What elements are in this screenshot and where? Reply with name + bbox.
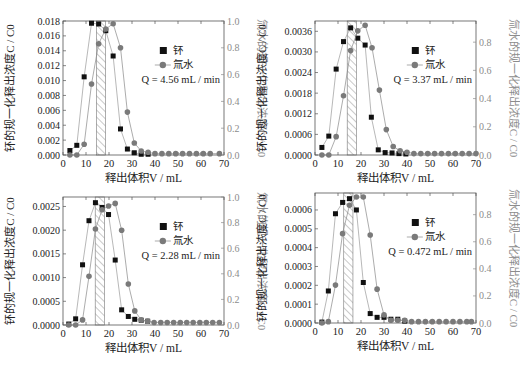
pu-data-point <box>82 74 87 79</box>
tritium-data-point <box>369 45 375 51</box>
right-y-tick-label: 0.4 <box>479 93 492 104</box>
legend-label-tritium: 氚水 <box>173 234 194 246</box>
figure: 010203040506070释出体积V / mL0.0000.0020.004… <box>0 0 520 370</box>
tritium-data-point <box>73 322 79 328</box>
right-y-tick-label: 0.0 <box>227 150 240 161</box>
tritium-data-point <box>377 87 383 93</box>
legend-square-icon <box>160 47 167 54</box>
tritium-data-point <box>388 317 394 323</box>
panel-bottom-right: 010203040506070释出体积V / mL0.00000.00010.0… <box>255 189 520 352</box>
plot-frame <box>315 21 476 155</box>
left-y-tick-label: 0.014 <box>38 45 61 56</box>
tritium-data-point <box>381 312 387 318</box>
pu-data-point <box>125 147 130 152</box>
pu-data-point <box>341 39 346 44</box>
x-tick-label: 50 <box>425 158 436 169</box>
x-tick-label: 20 <box>356 158 367 169</box>
tritium-data-point <box>178 320 184 326</box>
tritium-data-point <box>74 152 80 158</box>
left-y-tick-label: 0.0000 <box>285 150 313 161</box>
x-tick-label: 40 <box>402 158 413 169</box>
pu-data-point <box>340 200 345 205</box>
tritium-data-point <box>423 319 429 325</box>
pu-data-point <box>106 212 111 217</box>
tritium-data-point <box>217 320 223 326</box>
tritium-data-point <box>326 152 332 158</box>
left-y-tick-label: 0.018 <box>38 16 61 27</box>
pu-data-point <box>348 25 353 30</box>
right-axis-title: 氚水的规一化释出浓度C / C0 <box>508 189 520 328</box>
tritium-data-point <box>138 317 144 323</box>
series-line <box>322 25 476 155</box>
pu-data-point <box>333 211 338 216</box>
pu-data-point <box>74 143 79 148</box>
left-y-tick-label: 0.0002 <box>285 280 313 291</box>
tritium-data-point <box>66 322 72 328</box>
legend-label-tritium: 氚水 <box>173 58 194 70</box>
left-y-tick-label: 0.008 <box>38 90 61 101</box>
pu-data-point <box>383 150 388 155</box>
tritium-data-point <box>145 318 151 324</box>
tritium-data-point <box>81 141 87 147</box>
right-y-tick-label: 0.6 <box>227 243 240 254</box>
tritium-data-point <box>411 151 417 157</box>
tritium-data-point <box>106 203 112 209</box>
left-y-tick-label: 0.0020 <box>33 225 61 236</box>
tritium-data-point <box>443 319 449 325</box>
tritium-data-point <box>374 286 380 292</box>
x-tick-label: 60 <box>196 158 207 169</box>
right-y-tick-label: 0.4 <box>227 96 240 107</box>
x-tick-label: 30 <box>379 326 390 337</box>
pu-data-point <box>113 258 118 263</box>
tritium-data-point <box>395 317 401 323</box>
x-tick-label: 0 <box>60 328 65 339</box>
tritium-data-point <box>333 134 339 140</box>
right-y-tick-label: 0.4 <box>479 263 492 274</box>
tritium-data-point <box>138 148 144 154</box>
right-y-tick-label: 0.2 <box>479 290 492 301</box>
right-y-tick-label: 0.0 <box>227 320 240 331</box>
flow-rate-annotation: Q = 3.37 mL / min <box>394 74 473 85</box>
left-axis-title: 钚的规一化释出浓度C / C0 <box>3 24 16 152</box>
pu-data-point <box>132 150 137 155</box>
left-y-tick-label: 0.0004 <box>285 242 313 253</box>
tritium-data-point <box>93 226 99 232</box>
tritium-data-point <box>80 317 86 323</box>
tritium-data-point <box>416 319 422 325</box>
legend-circle-icon <box>412 62 418 68</box>
legend-circle-icon <box>412 234 418 240</box>
x-tick-label: 0 <box>312 326 317 337</box>
left-y-tick-label: 0.0003 <box>285 261 313 272</box>
tritium-data-point <box>119 227 125 233</box>
tritium-data-point <box>355 28 361 34</box>
pu-data-point <box>132 317 137 322</box>
left-y-tick-label: 0.0012 <box>285 108 313 119</box>
tritium-data-point <box>132 140 138 146</box>
pu-data-point <box>89 21 94 26</box>
chart-canvas: 010203040506070释出体积V / mL0.0000.0020.004… <box>0 0 520 370</box>
tritium-data-point <box>197 320 203 326</box>
tritium-data-point <box>89 81 95 87</box>
hatched-region <box>96 21 105 155</box>
legend: 钚氚水Q = 3.37 mL / min <box>394 45 473 85</box>
tritium-data-point <box>112 201 118 207</box>
left-y-tick-label: 0.0005 <box>285 223 313 234</box>
tritium-data-point <box>125 109 131 115</box>
tritium-data-point <box>466 151 472 157</box>
left-y-tick-label: 0.0000 <box>33 320 61 331</box>
tritium-data-point <box>436 319 442 325</box>
pu-data-point <box>73 316 78 321</box>
x-tick-label: 10 <box>81 328 92 339</box>
x-axis-label: 释出体积V / mL <box>357 171 434 184</box>
x-tick-label: 20 <box>104 158 115 169</box>
pu-data-point <box>86 218 91 223</box>
pu-data-point <box>347 196 352 201</box>
legend-square-icon <box>160 223 167 230</box>
tritium-data-point <box>326 319 332 325</box>
tritium-data-point <box>418 151 424 157</box>
tritium-data-point <box>118 45 124 51</box>
left-y-tick-label: 0.002 <box>38 135 61 146</box>
panel-top-right: 010203040506070释出体积V / mL0.00000.00060.0… <box>255 19 520 184</box>
left-y-tick-label: 0.0000 <box>285 318 313 329</box>
left-y-tick-label: 0.0018 <box>285 88 313 99</box>
